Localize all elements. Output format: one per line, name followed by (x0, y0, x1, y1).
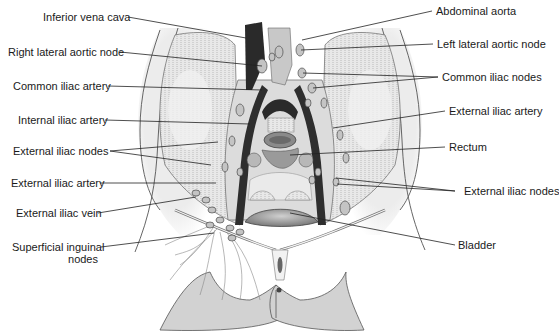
label-inferior-vena-cava: Inferior vena cava (43, 11, 130, 23)
label-bladder: Bladder (458, 239, 496, 251)
label-abdominal-aorta: Abdominal aorta (436, 5, 516, 17)
label-external-iliac-artery-left: External iliac artery (11, 177, 105, 189)
label-external-iliac-artery-right: External iliac artery (449, 105, 543, 117)
label-external-iliac-vein: External iliac vein (16, 207, 102, 219)
leader-superficial-inguinal-nodes (101, 233, 214, 247)
label-common-iliac-nodes: Common iliac nodes (442, 71, 542, 83)
label-external-iliac-nodes-left: External iliac nodes (13, 145, 108, 157)
label-rectum: Rectum (449, 141, 487, 153)
label-right-lateral-aortic-node: Right lateral aortic node (8, 46, 124, 58)
anus-marker (277, 288, 282, 293)
label-external-iliac-nodes-right: External iliac nodes (464, 185, 559, 197)
label-internal-iliac-artery: Internal iliac artery (18, 114, 108, 126)
label-superficial-inguinal-line1: Superficial inguinal (12, 241, 98, 253)
label-superficial-inguinal-line2: nodes (12, 253, 98, 265)
label-left-lateral-aortic-node: Left lateral aortic node (437, 38, 546, 50)
buttocks (160, 272, 364, 331)
label-superficial-inguinal-nodes: Superficial inguinal nodes (12, 241, 98, 265)
label-common-iliac-artery: Common iliac artery (13, 80, 111, 92)
